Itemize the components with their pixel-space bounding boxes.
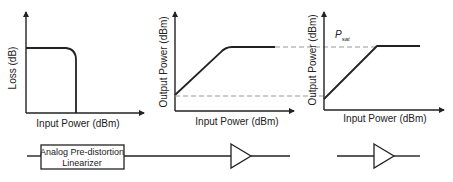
x-axis-label: Input Power (dBm): [36, 118, 119, 129]
x-axis-label: Input Power (dBm): [195, 116, 278, 127]
psat-label: Psat: [335, 29, 350, 42]
panel-amplifier-output: Output Power (dBm) Input Power (dBm) Psa…: [307, 12, 444, 124]
linearizer-label-line1: Analog Pre-distortion: [40, 147, 124, 157]
amplifier-triangle-icon: [231, 144, 251, 168]
y-axis-label: Loss (dB): [7, 47, 18, 90]
amplifier-curve: [324, 46, 420, 99]
y-axis-label: Output Power (dBm): [158, 16, 169, 107]
diagram-canvas: Loss (dB) Input Power (dBm) Output Power…: [0, 0, 453, 182]
y-axis-label: Output Power (dBm): [307, 14, 318, 105]
linearizer-label-line2: Linearizer: [62, 158, 102, 168]
output-curve: [175, 47, 275, 95]
panel-linearizer-loss: Loss (dB) Input Power (dBm): [7, 12, 144, 129]
loss-curve: [26, 48, 76, 113]
block-diagram: Analog Pre-distortion Linearizer: [27, 144, 420, 169]
x-axis-label: Input Power (dBm): [343, 113, 426, 124]
standalone-amplifier-triangle-icon: [374, 144, 394, 168]
